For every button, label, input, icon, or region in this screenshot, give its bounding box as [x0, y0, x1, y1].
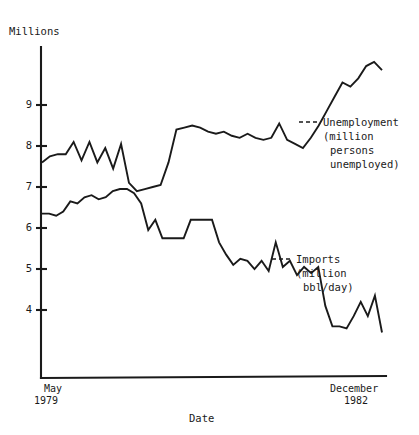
chart-figure: 9 8 7 6 5 4 Millions Date May 1979 Decem… — [0, 0, 419, 435]
unemployment-annotation-line-3: persons — [330, 144, 374, 156]
imports-annotation-line-3: bbl/day) — [303, 281, 354, 293]
imports-annotation: Imports (million bbl/day) — [272, 253, 354, 293]
x-axis-title: Date — [189, 412, 214, 424]
y-tick-label-6: 6 — [26, 221, 32, 233]
x-end-label-month: December — [330, 383, 378, 394]
y-tick-label-8: 8 — [26, 139, 32, 151]
imports-annotation-line-1: Imports — [296, 253, 340, 265]
imports-annotation-line-2: (million — [296, 267, 347, 279]
unemployment-annotation: Unemployment (million persons unemployed… — [299, 116, 400, 170]
y-tick-label-9: 9 — [26, 98, 32, 110]
unemployment-annotation-line-2: (million — [323, 130, 374, 142]
line-chart-canvas: 9 8 7 6 5 4 Millions Date May 1979 Decem… — [0, 0, 419, 435]
y-tick-label-7: 7 — [26, 180, 32, 192]
y-tick-label-4: 4 — [26, 303, 32, 315]
unemployment-annotation-line-4: unemployed) — [330, 158, 400, 170]
y-tick-label-5: 5 — [26, 262, 32, 274]
x-end-label-year: 1982 — [344, 395, 368, 406]
y-axis-title: Millions — [9, 25, 60, 37]
x-start-label-year: 1979 — [34, 395, 58, 406]
x-axis-line — [41, 376, 386, 378]
unemployment-annotation-line-1: Unemployment — [323, 116, 399, 128]
x-start-label-month: May — [44, 383, 62, 394]
